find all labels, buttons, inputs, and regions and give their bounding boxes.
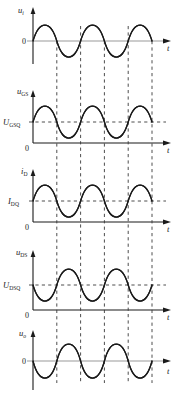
panel-ugs: uGS UGSQ 0 t bbox=[3, 86, 171, 155]
panel-id-dc-level-label: IDQ bbox=[7, 196, 19, 207]
panel-uo-y-axis-arrow bbox=[31, 330, 36, 337]
panel-uds: uDS UDSQ 0 t bbox=[3, 247, 171, 322]
panel-id-y-label: iD bbox=[21, 166, 27, 177]
panel-id-y-axis-arrow bbox=[31, 169, 36, 176]
panel-ugs-dc-level-label: UGSQ bbox=[3, 117, 20, 128]
panel-id: iD IDQ 0 t bbox=[7, 166, 171, 234]
panel-ugs-zero-label: 0 bbox=[25, 144, 29, 153]
panel-ui-y-label: ui bbox=[18, 5, 24, 16]
waveform-figure: ui 0 t uGS UGSQ 0 t iD IDQ 0 t bbox=[0, 0, 181, 407]
panel-uds-y-label: uDS bbox=[16, 247, 27, 258]
panel-uo-x-axis-arrow bbox=[163, 358, 171, 363]
panel-id-t-label: t bbox=[167, 224, 170, 234]
vertical-phase-markers bbox=[57, 26, 152, 383]
panel-uo-zero-label: 0 bbox=[22, 357, 26, 366]
panel-ui-zero-label: 0 bbox=[22, 37, 26, 46]
panel-uo: uo 0 t bbox=[19, 328, 171, 390]
panel-uo-y-label: uo bbox=[19, 328, 26, 339]
panel-uds-zero-label: 0 bbox=[25, 311, 29, 320]
panel-uo-t-label: t bbox=[167, 366, 170, 376]
waveform-overlay bbox=[33, 25, 152, 378]
panel-uds-y-axis-arrow bbox=[31, 250, 36, 257]
panel-ugs-y-label: uGS bbox=[17, 86, 28, 97]
panel-ugs-t-label: t bbox=[167, 145, 170, 155]
panel-ugs-y-axis-arrow bbox=[31, 90, 36, 97]
panel-ui-t-label: t bbox=[167, 43, 170, 53]
panel-id-zero-label: 0 bbox=[25, 223, 29, 232]
panel-ui-y-axis-arrow bbox=[31, 7, 36, 14]
panel-uds-dc-level-label: UDSQ bbox=[3, 280, 20, 291]
panel-uds-t-label: t bbox=[167, 312, 170, 322]
panel-ui: ui 0 t bbox=[18, 5, 171, 64]
